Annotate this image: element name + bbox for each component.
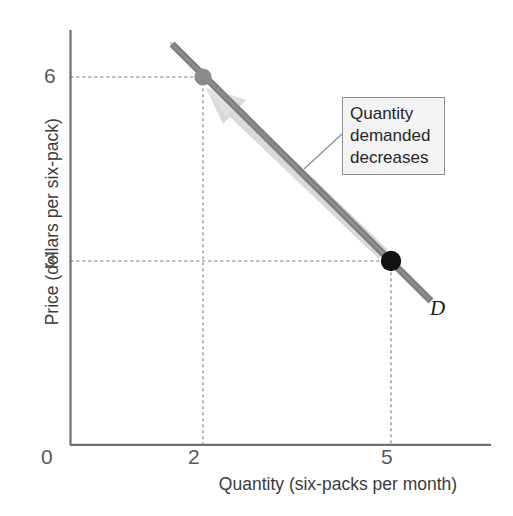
axes: [70, 30, 491, 445]
x-tick-label-5: 5: [381, 446, 393, 467]
annotation-line-2: demanded: [350, 125, 438, 147]
x-tick-label-2: 2: [188, 446, 200, 467]
annotation-quantity-demanded-decreases: Quantity demanded decreases: [342, 97, 445, 175]
origin-label: 0: [41, 446, 53, 467]
x-axis-title: Quantity (six-packs per month): [173, 476, 503, 494]
annotation-line-1: Quantity: [350, 103, 438, 125]
annotation-leader-line: [304, 134, 342, 169]
data-point-2-6: [194, 68, 211, 85]
demand-curve-label: D: [430, 298, 445, 319]
y-tick-label-3: 3: [44, 249, 56, 270]
demand-curve-chart: Price (dollars per six-pack) Quantity (s…: [0, 0, 513, 516]
data-point-5-3: [381, 251, 401, 271]
y-axis-title: Price (dollars per six-pack): [44, 72, 62, 372]
annotation-line-3: decreases: [350, 147, 438, 169]
y-tick-label-6: 6: [44, 65, 56, 86]
chart-canvas: [0, 0, 513, 516]
